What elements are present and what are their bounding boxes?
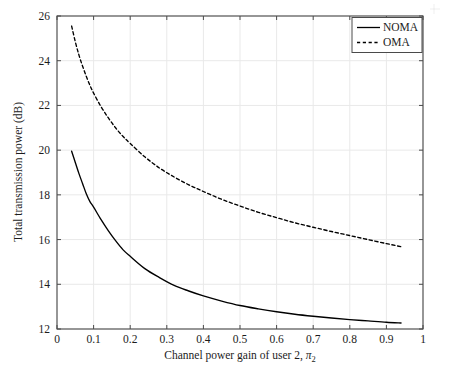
y-tick-label: 20 <box>39 144 51 156</box>
x-tick-label: 0.1 <box>86 333 101 345</box>
x-axis-title: Channel power gain of user 2, π2 <box>164 349 316 364</box>
y-axis-tick-labels: 1214161820222426 <box>39 10 51 335</box>
x-tick-label: 0.8 <box>343 333 358 345</box>
y-tick-label: 14 <box>39 278 51 290</box>
x-axis-tick-labels: 00.10.20.30.40.50.60.70.80.91 <box>54 333 426 345</box>
x-tick-label: 0.3 <box>160 333 175 345</box>
scan-artifact <box>430 4 440 14</box>
x-tick-label: 0.4 <box>196 333 211 345</box>
figure-container: 00.10.20.30.40.50.60.70.80.91 1214161820… <box>0 0 449 376</box>
y-tick-label: 24 <box>39 55 51 67</box>
chart-legend[interactable]: NOMA OMA <box>352 18 422 53</box>
y-tick-label: 22 <box>39 99 51 111</box>
y-tick-label: 18 <box>39 189 51 201</box>
y-axis-title: Total transmission power (dB) <box>12 102 25 242</box>
x-tick-label: 0.7 <box>306 333 321 345</box>
x-tick-label: 0.9 <box>379 333 394 345</box>
legend-label-oma: OMA <box>383 36 411 48</box>
chart-plot: 00.10.20.30.40.50.60.70.80.91 1214161820… <box>0 0 449 376</box>
x-tick-label: 0 <box>54 333 60 345</box>
x-tick-label: 0.6 <box>269 333 284 345</box>
x-tick-label: 0.5 <box>233 333 248 345</box>
legend-label-noma: NOMA <box>383 21 419 33</box>
y-tick-label: 16 <box>39 234 51 246</box>
y-tick-label: 12 <box>39 323 51 335</box>
y-tick-label: 26 <box>39 10 51 22</box>
x-tick-label: 1 <box>420 333 426 345</box>
x-tick-label: 0.2 <box>123 333 138 345</box>
